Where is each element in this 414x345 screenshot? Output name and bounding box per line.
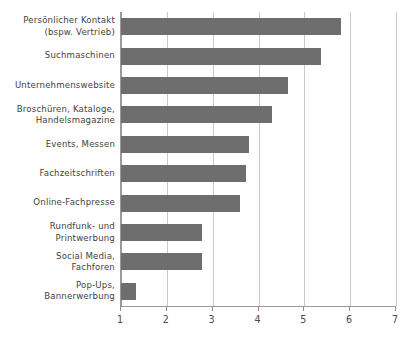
bar bbox=[121, 253, 202, 270]
plot-area bbox=[120, 12, 396, 307]
bar bbox=[121, 106, 272, 123]
tick-mark-3 bbox=[212, 306, 213, 311]
bar-chart: Persönlicher Kontakt (bspw. Vertrieb)Suc… bbox=[0, 0, 414, 345]
x-tick-label: 1 bbox=[110, 313, 130, 326]
category-label: Events, Messen bbox=[0, 139, 115, 150]
x-tick-label: 5 bbox=[293, 313, 313, 326]
category-label: Broschüren, Kataloge, Handelsmagazine bbox=[0, 104, 115, 127]
category-label: Pop-Ups, Bannerwerbung bbox=[0, 280, 115, 303]
bar bbox=[121, 48, 321, 65]
x-tick-label: 7 bbox=[385, 313, 405, 326]
x-tick-label: 2 bbox=[156, 313, 176, 326]
category-label: Rundfunk- und Printwerbung bbox=[0, 221, 115, 244]
tick-mark-6 bbox=[349, 306, 350, 311]
bar bbox=[121, 195, 240, 212]
bar bbox=[121, 77, 288, 94]
bar bbox=[121, 18, 341, 35]
x-tick-label: 6 bbox=[339, 313, 359, 326]
tick-mark-1 bbox=[120, 306, 121, 311]
x-tick-label: 4 bbox=[248, 313, 268, 326]
category-label: Persönlicher Kontakt (bspw. Vertrieb) bbox=[0, 15, 115, 38]
bar bbox=[121, 165, 246, 182]
x-axis-tick-marks bbox=[120, 306, 396, 311]
gridline-6 bbox=[350, 12, 351, 306]
category-label: Suchmaschinen bbox=[0, 50, 115, 61]
bar bbox=[121, 283, 136, 300]
gridline-7 bbox=[396, 12, 397, 306]
bar bbox=[121, 224, 202, 241]
category-label-column: Persönlicher Kontakt (bspw. Vertrieb)Suc… bbox=[0, 12, 118, 306]
x-tick-label: 3 bbox=[202, 313, 222, 326]
tick-mark-4 bbox=[258, 306, 259, 311]
bar bbox=[121, 136, 249, 153]
tick-mark-7 bbox=[395, 306, 396, 311]
x-axis-tick-labels: 1234567 bbox=[0, 313, 414, 331]
tick-mark-2 bbox=[166, 306, 167, 311]
category-label: Fachzeitschriften bbox=[0, 168, 115, 179]
category-label: Social Media, Fachforen bbox=[0, 251, 115, 274]
category-label: Online-Fachpresse bbox=[0, 197, 115, 208]
category-label: Unternehmenswebsite bbox=[0, 80, 115, 91]
tick-mark-5 bbox=[303, 306, 304, 311]
